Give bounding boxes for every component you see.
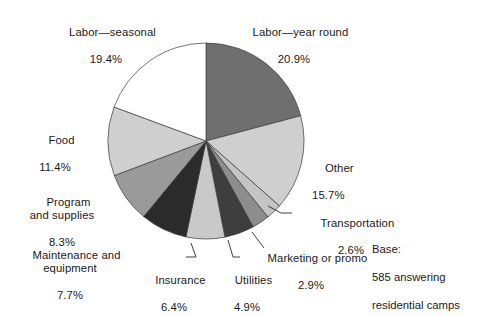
slice-label-name: Other [325,162,354,174]
slice-label-name: Transportation [320,217,394,229]
base-note: Base: 585 answering residential camps [372,228,492,312]
leader-line-insurance [186,243,196,257]
slice-label-name: Labor—year round [253,26,349,38]
slice-label-name: Program and supplies [30,196,95,222]
slice-label-name: Labor—seasonal [69,26,156,38]
base-note-line-3: residential camps [372,299,460,311]
slice-label-value: 7.7% [2,289,138,303]
slice-label-name: Maintenance and equipment [32,249,120,275]
base-note-line-1: Base: [372,243,401,255]
slice-label-maintenance-and-equipment: Maintenance and equipment 7.7% [2,235,138,315]
base-note-line-2: 585 answering [372,271,445,283]
leader-line-utilities [228,240,240,257]
slice-label-labor-seasonal: Labor—seasonal 19.4% [26,12,186,94]
slice-label-value: 20.9% [214,53,374,67]
slice-label-value: 19.4% [26,53,186,67]
slice-label-value: 11.4% [14,161,96,175]
slice-label-value: 15.7% [312,189,402,203]
slice-label-labor-year-round: Labor—year round 20.9% [214,12,374,94]
slice-label-value: 6.4% [136,301,212,315]
slice-label-insurance: Insurance 6.4% [136,260,212,315]
slice-label-name: Insurance [155,274,206,286]
slice-label-name: Food [48,134,74,146]
